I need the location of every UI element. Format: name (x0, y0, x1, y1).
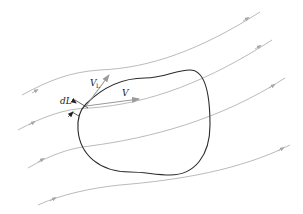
circulation-diagram: dL V L V (0, 0, 303, 214)
v-l-subscript: L (96, 82, 100, 89)
v-label: V (122, 88, 130, 98)
dl-label: dL (60, 96, 72, 106)
streamline-3 (28, 78, 285, 168)
streamline-2 (18, 40, 272, 130)
flow-arrow-icon (278, 148, 283, 151)
flow-arrow-icon (269, 85, 274, 88)
flow-arrow-icon (32, 90, 37, 93)
streamline-1 (22, 12, 260, 95)
flow-arrow-icon (29, 122, 34, 125)
streamlines (18, 12, 290, 205)
flow-arrow-icon (255, 46, 260, 49)
